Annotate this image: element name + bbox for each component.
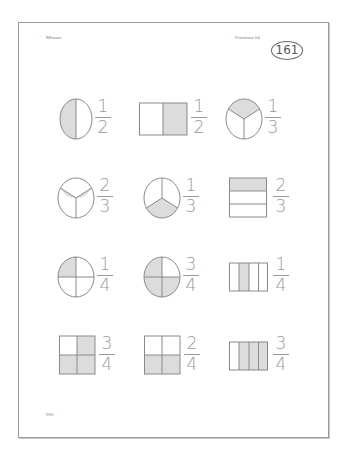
rect-halves-icon [139,97,189,141]
fraction-item-r3c1: 1 4 [57,255,147,301]
numerator: 2 [184,334,200,353]
circle-thirds-icon [57,176,95,220]
fraction-label: 1 2 [95,97,111,143]
fraction-item-r1c1: 1 2 [59,97,149,143]
fraction-label: 3 4 [273,334,289,380]
fraction-item-r1c2: 1 2 [139,97,229,143]
fraction-label: 2 3 [97,176,113,222]
denominator: 3 [97,197,113,216]
footer-page-code: 900 [46,412,54,417]
fraction-item-r2c2: 1 3 [143,176,233,222]
numerator: 1 [191,97,207,116]
numerator: 1 [97,255,113,274]
numerator: 2 [273,176,289,195]
denominator: 4 [184,355,200,374]
fraction-label: 3 4 [99,334,115,380]
fraction-item-r3c3: 1 4 [229,255,319,301]
fraction-label: 2 4 [184,334,200,380]
page-number-badge: 161 [271,41,303,60]
header-right-label: Fractions #4 [235,35,260,40]
fraction-item-r4c2: 2 4 [144,334,234,380]
fraction-label: 3 4 [183,255,199,301]
circle-quarters-icon [57,255,95,299]
denominator: 4 [273,276,289,295]
circle-thirds-icon [143,176,181,220]
denominator: 3 [265,118,281,137]
denominator: 3 [273,197,289,216]
denominator: 4 [273,355,289,374]
fraction-item-r3c2: 3 4 [143,255,233,301]
worksheet-page: Mixture Fractions #4 161 1 2 1 2 [18,22,329,438]
circle-thirds-icon [225,97,263,141]
fraction-label: 1 3 [265,97,281,143]
fraction-item-r1c3: 1 3 [225,97,315,143]
fraction-label: 1 3 [183,176,199,222]
denominator: 4 [97,276,113,295]
fraction-label: 1 4 [273,255,289,301]
denominator: 4 [99,355,115,374]
denominator: 4 [183,276,199,295]
fraction-label: 2 3 [273,176,289,222]
numerator: 2 [97,176,113,195]
square-quarters-icon [144,334,184,378]
fraction-item-r2c3: 2 3 [229,176,319,222]
numerator: 1 [265,97,281,116]
denominator: 2 [191,118,207,137]
fraction-label: 1 4 [97,255,113,301]
rect-thirds-icon [229,176,269,220]
fraction-item-r4c3: 3 4 [229,334,319,380]
circle-halves-icon [59,97,93,141]
numerator: 1 [95,97,111,116]
denominator: 3 [183,197,199,216]
fraction-item-r4c1: 3 4 [59,334,149,380]
rect-quarters-icon [229,255,269,299]
rect-quarters-icon [229,334,269,378]
numerator: 1 [273,255,289,274]
header-left-label: Mixture [46,35,62,40]
circle-quarters-icon [143,255,181,299]
numerator: 3 [99,334,115,353]
fraction-label: 1 2 [191,97,207,143]
denominator: 2 [95,118,111,137]
numerator: 3 [183,255,199,274]
square-quarters-icon [59,334,99,378]
fraction-item-r2c1: 2 3 [57,176,147,222]
numerator: 3 [273,334,289,353]
numerator: 1 [183,176,199,195]
